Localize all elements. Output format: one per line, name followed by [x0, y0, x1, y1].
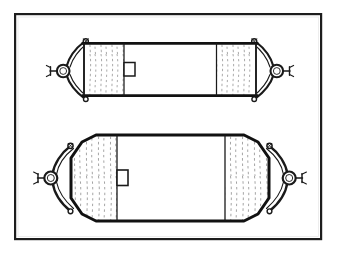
lift-ring-bore — [273, 68, 280, 75]
corner-eyelet-bottom — [84, 97, 89, 102]
corner-eyelet-bottom — [267, 209, 272, 214]
valve-body — [124, 63, 135, 77]
technical-drawing — [0, 0, 340, 257]
figure-bottom-body — [71, 135, 269, 221]
drawing-canvas: Inflatable lift bag / salvage pontoon — … — [0, 0, 340, 257]
left-gather-panel — [73, 136, 117, 220]
corner-eyelet-bottom — [252, 97, 257, 102]
lift-ring-bore — [60, 68, 67, 75]
figure-top-deflated — [46, 38, 293, 101]
lift-ring-bore — [286, 175, 293, 182]
corner-eyelet-bottom — [68, 209, 73, 214]
right-gather-panel — [217, 44, 254, 95]
lift-ring-bore — [47, 175, 54, 182]
figure-bottom-inflation-valve — [117, 170, 128, 186]
left-gather-panel — [87, 44, 124, 95]
figure-top-inflation-valve — [124, 63, 135, 77]
valve-body — [117, 170, 128, 186]
figure-top-body — [83, 43, 257, 96]
